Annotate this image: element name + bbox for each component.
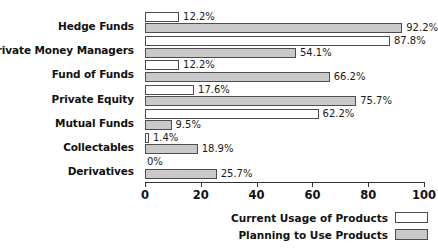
legend-item: Current Usage of Products bbox=[180, 209, 428, 226]
bar-value-label: 12.2% bbox=[183, 11, 215, 22]
bar-value-label: 87.8% bbox=[394, 35, 426, 46]
legend-swatch-current bbox=[395, 212, 428, 223]
bar-value-label: 0% bbox=[147, 156, 163, 167]
category-label: Hedge Funds bbox=[58, 21, 134, 32]
bar bbox=[145, 96, 356, 106]
x-axis-tick bbox=[424, 182, 425, 187]
x-axis-tick-label: 20 bbox=[193, 189, 209, 202]
bar-value-label: 62.2% bbox=[323, 108, 355, 119]
bar bbox=[145, 169, 217, 179]
bar-value-label: 12.2% bbox=[183, 59, 215, 70]
x-axis-tick bbox=[201, 182, 202, 187]
bar-value-label: 25.7% bbox=[221, 168, 253, 179]
bar-group-1: 54.1% bbox=[145, 48, 424, 58]
bar-group-0: 17.6% bbox=[145, 85, 424, 95]
bar-group-1: 18.9% bbox=[145, 144, 424, 154]
bar bbox=[145, 144, 198, 154]
bar-group-1: 75.7% bbox=[145, 96, 424, 106]
bar-group-0: 0% bbox=[145, 157, 424, 167]
bar-value-label: 54.1% bbox=[300, 47, 332, 58]
bar-group-0: 12.2% bbox=[145, 12, 424, 22]
x-axis-tick bbox=[312, 182, 313, 187]
bar bbox=[145, 120, 172, 130]
bar bbox=[145, 48, 296, 58]
category-label: Collectables bbox=[63, 142, 134, 153]
x-axis-tick bbox=[368, 182, 369, 187]
bar-group-1: 66.2% bbox=[145, 72, 424, 82]
x-axis-tick-label: 40 bbox=[249, 189, 265, 202]
bar bbox=[145, 23, 402, 33]
bar bbox=[145, 72, 330, 82]
bar-group-0: 87.8% bbox=[145, 36, 424, 46]
legend-item: Planning to Use Products bbox=[180, 226, 428, 243]
category-label: Derivatives bbox=[68, 166, 134, 177]
bar-value-label: 1.4% bbox=[153, 132, 178, 143]
bar bbox=[145, 133, 149, 143]
x-axis-tick-label: 0 bbox=[141, 189, 149, 202]
bar-group-1: 92.2% bbox=[145, 23, 424, 33]
category-axis: Hedge FundsPrivate Money ManagersFund of… bbox=[0, 12, 140, 182]
bar-value-label: 75.7% bbox=[360, 95, 392, 106]
bar bbox=[145, 60, 179, 70]
bar bbox=[145, 85, 194, 95]
bar-group-1: 25.7% bbox=[145, 169, 424, 179]
legend-swatch-planning bbox=[395, 229, 428, 240]
category-label: Mutual Funds bbox=[55, 118, 134, 129]
x-axis-line bbox=[145, 182, 425, 183]
bar-value-label: 92.2% bbox=[406, 22, 438, 33]
bar-value-label: 18.9% bbox=[202, 143, 234, 154]
bar-group-0: 1.4% bbox=[145, 133, 424, 143]
x-axis-tick bbox=[145, 182, 146, 187]
x-axis-tick-label: 100 bbox=[412, 189, 436, 202]
bar bbox=[145, 109, 319, 119]
bar bbox=[145, 12, 179, 22]
bar-value-label: 17.6% bbox=[198, 84, 230, 95]
bar-value-label: 66.2% bbox=[334, 71, 366, 82]
bar bbox=[145, 36, 390, 46]
x-axis-tick-label: 80 bbox=[360, 189, 376, 202]
legend-label: Current Usage of Products bbox=[231, 212, 388, 224]
bar-value-label: 9.5% bbox=[176, 119, 201, 130]
bar-group-1: 9.5% bbox=[145, 120, 424, 130]
x-axis-tick bbox=[257, 182, 258, 187]
category-label: Fund of Funds bbox=[52, 69, 134, 80]
bar-group-0: 62.2% bbox=[145, 109, 424, 119]
legend-label: Planning to Use Products bbox=[238, 229, 388, 241]
category-label: Private Money Managers bbox=[0, 45, 134, 56]
bar-group-0: 12.2% bbox=[145, 60, 424, 70]
x-axis-tick-label: 60 bbox=[304, 189, 320, 202]
category-label: Private Equity bbox=[52, 94, 134, 105]
chart-legend: Current Usage of ProductsPlanning to Use… bbox=[180, 209, 428, 243]
plot-area: 12.2%92.2%87.8%54.1%12.2%66.2%17.6%75.7%… bbox=[145, 12, 424, 182]
